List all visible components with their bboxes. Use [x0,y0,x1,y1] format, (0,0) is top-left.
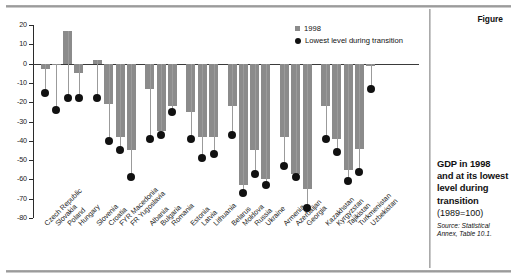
y-axis-line [33,25,34,218]
y-tick-label: -50 [17,156,27,163]
y-tick [29,199,33,200]
data-point-dot [344,177,352,185]
dot-stem [232,64,233,135]
y-tick [29,218,33,219]
dot-stem [284,64,285,166]
y-tick-label: -30 [17,118,27,125]
dot-stem [120,64,121,151]
caption-source: Source: Statistical Annex, Table 10.1. [437,222,509,239]
y-tick [29,141,33,142]
dot-stem [79,64,80,99]
data-point-dot [52,106,60,114]
data-point-dot [355,168,363,176]
data-point-dot [157,131,165,139]
y-tick [29,83,33,84]
legend-dot-icon [295,38,301,44]
y-tick [29,25,33,26]
figure-page: 20100-10-20-30-40-50-60-70-80 Czech Repu… [0,0,517,279]
data-point-dot [280,162,288,170]
data-point-dot [262,181,270,189]
data-point-dot [239,189,247,197]
dot-stem [150,64,151,139]
data-point-dot [75,94,83,102]
data-point-dot [41,89,49,97]
dot-stem [191,64,192,139]
y-tick-label: 20 [19,21,27,28]
dot-stem [243,64,244,193]
caption-title: GDP in 1998 and at its lowest level duri… [437,158,509,207]
dot-stem [68,31,69,99]
dot-stem [214,64,215,155]
y-tick [29,102,33,103]
y-tick [29,179,33,180]
data-point-dot [105,137,113,145]
dot-stem [202,64,203,159]
dot-stem [326,64,327,139]
chart-axes: 20100-10-20-30-40-50-60-70-80 Czech Repu… [33,25,419,218]
dot-stem [296,64,297,178]
legend-label-lowest-level: Lowest level during transition [305,36,403,45]
caption-source-line2: Annex, Table 10.1. [437,230,509,238]
legend-label-1998: 1998 [304,24,321,33]
figure-side-panel: Figure GDP in 1998 and at its lowest lev… [437,0,511,279]
chart-plot: 20100-10-20-30-40-50-60-70-80 Czech Repu… [0,10,428,272]
y-tick [29,44,33,45]
legend-item-lowest-level: Lowest level during transition [295,36,403,45]
y-tick-label: -80 [17,214,27,221]
vertical-divider [429,9,431,268]
dot-stem [266,64,267,186]
data-point-dot [333,148,341,156]
data-point-dot [127,173,135,181]
figure-caption: GDP in 1998 and at its lowest level duri… [437,158,509,239]
data-point-dot [198,154,206,162]
dot-stem [307,64,308,209]
y-tick-label: -70 [17,195,27,202]
dot-stem [172,64,173,112]
y-tick-label: -10 [17,79,27,86]
data-point-dot [210,150,218,158]
y-tick-label: -60 [17,176,27,183]
y-tick [29,160,33,161]
data-point-dot [367,85,375,93]
y-tick-label: -20 [17,99,27,106]
dot-stem [131,64,132,178]
dot-stem [109,64,110,141]
caption-source-line1: Source: Statistical [437,222,509,230]
dot-stem [161,64,162,135]
y-tick-label: -40 [17,137,27,144]
data-point-dot [146,135,154,143]
legend-square-icon [295,26,300,31]
y-tick [29,122,33,123]
data-point-dot [292,173,300,181]
data-point-dot [322,135,330,143]
chart-legend: 1998 Lowest level during transition [295,24,403,48]
data-point-dot [93,94,101,102]
y-tick-label: 10 [19,41,27,48]
figure-label: Figure [477,14,503,24]
caption-subtitle: (1989=100) [437,208,509,219]
legend-item-1998: 1998 [295,24,403,33]
dot-stem [56,64,57,110]
dot-stem [359,64,360,172]
data-point-dot [168,108,176,116]
data-point-dot [116,146,124,154]
dot-stem [97,60,98,99]
dot-stem [255,64,256,174]
y-tick-label: 0 [23,60,27,67]
dot-stem [348,64,349,182]
data-point-dot [187,135,195,143]
dot-stem [337,64,338,153]
data-point-dot [228,131,236,139]
data-point-dot [64,94,72,102]
data-point-dot [251,170,259,178]
top-rule [6,5,511,8]
